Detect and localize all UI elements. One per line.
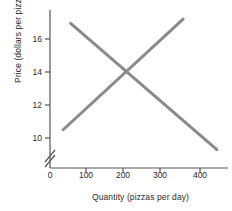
supply-demand-chart: Price (dollars per pizza) Quantity (pizz… [0,0,232,211]
demand-curve [71,23,217,149]
curve-group [63,19,217,149]
plot-area [0,0,232,211]
supply-curve [63,19,183,130]
x-tick-marks [86,168,200,173]
axis-lines [50,10,228,168]
y-tick-marks [45,39,50,138]
